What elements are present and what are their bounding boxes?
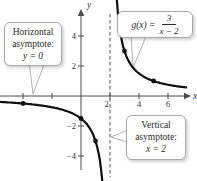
callout-function-definition: g(x) = 3 x − 2 xyxy=(117,11,193,38)
x-axis-label: x xyxy=(192,91,197,101)
fraction-denominator: x − 2 xyxy=(160,25,179,36)
svg-text:2: 2 xyxy=(104,99,108,109)
callout-text-line: asymptote: xyxy=(6,38,60,50)
svg-text:4: 4 xyxy=(137,99,142,109)
rational-function-graph-figure: 24642−2−4xy Horizontal asymptote: y = 0 … xyxy=(0,0,197,181)
svg-text:−2: −2 xyxy=(67,121,76,131)
callout-horizontal-asymptote: Horizontal asymptote: y = 0 xyxy=(4,22,62,66)
svg-text:−4: −4 xyxy=(67,151,77,161)
svg-text:6: 6 xyxy=(166,99,170,109)
callout-text-line: Vertical xyxy=(128,119,184,131)
svg-text:2: 2 xyxy=(72,61,76,71)
horizontal-asymptote-equation: y = 0 xyxy=(6,50,60,62)
vertical-asymptote-equation: x = 2 xyxy=(128,143,184,155)
fraction-numerator: 3 xyxy=(162,13,177,25)
callout-vertical-asymptote: Vertical asymptote: x = 2 xyxy=(126,115,186,160)
callout-text-line: asymptote: xyxy=(128,131,184,143)
function-lhs: g(x) = xyxy=(131,19,155,31)
y-axis-label: y xyxy=(86,0,92,10)
callout-text-line: Horizontal xyxy=(6,26,60,38)
function-fraction: 3 x − 2 xyxy=(160,13,179,36)
svg-text:4: 4 xyxy=(72,31,77,41)
